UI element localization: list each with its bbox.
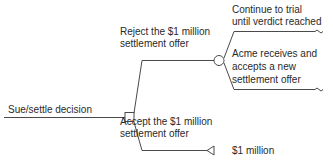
new-offer-continuation-squiggle-icon [315, 88, 323, 91]
new-offer-outcome-label-line3: settlement offer [232, 74, 301, 86]
root-label: Sue/settle decision [8, 104, 92, 116]
trial-outcome-label-line2: until verdict reached [232, 16, 322, 28]
reject-branch-line [134, 61, 214, 114]
reject-branch-label-line2: settlement offer [120, 38, 189, 50]
chance-node-circle [214, 56, 224, 66]
decision-tree-diagram: Sue/settle decision Reject the $1 millio… [0, 0, 333, 161]
trial-continuation-squiggle-icon [315, 30, 323, 33]
accept-payoff-label: $1 million [232, 145, 274, 157]
end-node-triangle [207, 146, 214, 155]
accept-branch-label-line2: settlement offer [120, 128, 189, 140]
new-offer-outcome-label-line1: Acme receives and [232, 48, 317, 60]
trial-outcome-label-line1: Continue to trial [232, 4, 302, 16]
accept-branch-label-line1: Accept the $1 million [120, 116, 212, 128]
new-offer-outcome-label-line2: accepts a new [232, 61, 296, 73]
reject-branch-label-line1: Reject the $1 million [120, 26, 210, 38]
